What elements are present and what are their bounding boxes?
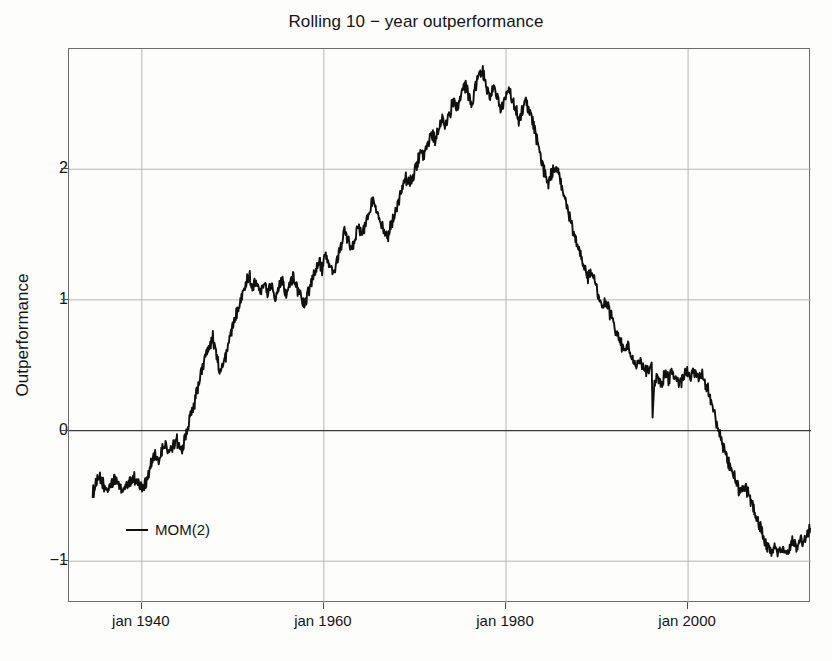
y-tick-mark (61, 560, 68, 561)
x-tick-label: jan 1960 (294, 612, 352, 629)
legend-label-mom2: MOM(2) (155, 521, 210, 538)
x-tick-mark (323, 602, 324, 609)
x-tick-label: jan 1940 (112, 612, 170, 629)
x-tick-label: jan 2000 (658, 612, 716, 629)
x-tick-mark (141, 602, 142, 609)
data-series-group (93, 66, 810, 557)
chart-title: Rolling 10 − year outperformance (0, 12, 832, 32)
x-tick-mark (505, 602, 506, 609)
y-tick-mark (61, 430, 68, 431)
plot-svg (69, 49, 811, 603)
x-tick-label: jan 1980 (476, 612, 534, 629)
y-tick-mark (61, 299, 68, 300)
plot-area (68, 48, 810, 602)
x-tick-mark (687, 602, 688, 609)
legend-line-marker (126, 529, 148, 531)
series-line-mom2 (93, 66, 810, 557)
gridlines (69, 49, 811, 603)
y-axis-label: Outperformance (13, 220, 33, 450)
y-tick-mark (61, 168, 68, 169)
chart-figure: Rolling 10 − year outperformance Outperf… (0, 0, 832, 661)
legend: MOM(2) (126, 521, 210, 538)
